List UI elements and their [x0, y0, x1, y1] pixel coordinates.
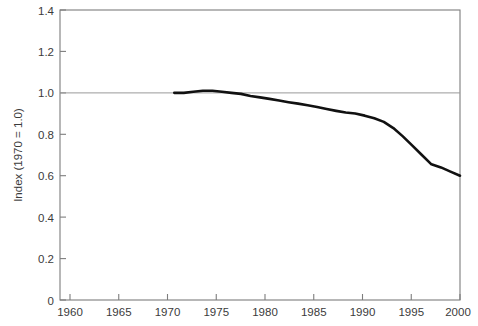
y-tick-label-0.6: 0.6 — [38, 170, 54, 182]
y-tick-label-0.8: 0.8 — [38, 129, 54, 141]
plot-frame — [60, 10, 460, 300]
series-line-index — [174, 91, 460, 176]
y-axis-title: Index (1970 = 1.0) — [12, 108, 24, 202]
x-tick-label-1960: 1960 — [57, 306, 83, 318]
x-tick-label-1995: 1995 — [398, 306, 424, 318]
y-axis-ticks — [60, 10, 66, 300]
x-tick-label-1990: 1990 — [350, 306, 376, 318]
x-tick-label-1975: 1975 — [203, 306, 229, 318]
line-chart: 1.4 1.2 1.0 0.8 0.6 0.4 0.2 0 1960 1965 … — [0, 0, 478, 326]
y-axis-tick-labels: 1.4 1.2 1.0 0.8 0.6 0.4 0.2 0 — [38, 5, 55, 307]
y-tick-label-0: 0 — [48, 295, 54, 307]
x-tick-label-1985: 1985 — [301, 306, 327, 318]
x-axis-tick-labels: 1960 1965 1970 1975 1980 1985 1990 1995 … — [57, 306, 471, 318]
chart-figure: 1.4 1.2 1.0 0.8 0.6 0.4 0.2 0 1960 1965 … — [0, 0, 478, 326]
y-tick-label-1.2: 1.2 — [38, 46, 54, 58]
y-tick-label-0.4: 0.4 — [38, 212, 55, 224]
y-tick-label-0.2: 0.2 — [38, 253, 54, 265]
x-tick-label-2000: 2000 — [445, 306, 471, 318]
x-tick-label-1980: 1980 — [252, 306, 278, 318]
x-tick-label-1965: 1965 — [106, 306, 132, 318]
y-tick-label-1.4: 1.4 — [38, 5, 55, 17]
x-axis-ticks — [70, 294, 460, 300]
y-tick-label-1.0: 1.0 — [38, 87, 54, 99]
plot-border — [60, 10, 460, 300]
x-tick-label-1970: 1970 — [155, 306, 181, 318]
